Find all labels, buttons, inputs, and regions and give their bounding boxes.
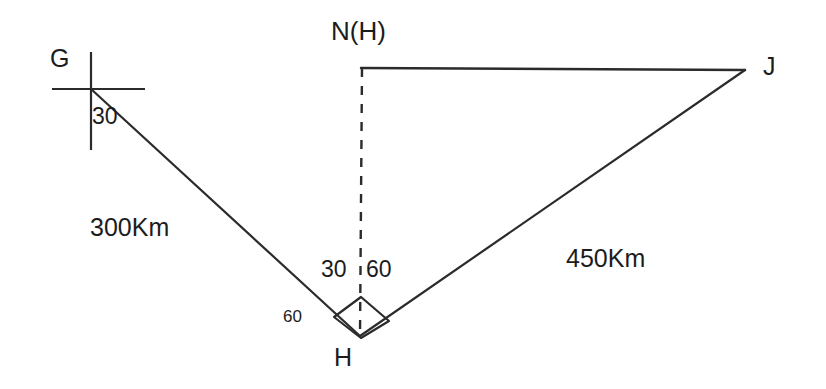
- vertex-label-g: G: [50, 46, 69, 71]
- angle-label-h-north-to-j: 60: [366, 258, 392, 281]
- angle-label-h-exterior: 60: [283, 308, 302, 325]
- angle-marker-icon: [334, 297, 389, 338]
- segment-HJ: [360, 70, 745, 336]
- vertex-label-j: J: [763, 54, 776, 79]
- vertex-label-h: H: [334, 345, 352, 370]
- distance-label-gh: 300Km: [90, 215, 169, 240]
- distance-label-hj: 450Km: [566, 246, 645, 271]
- vertex-label-north-h: N(H): [331, 18, 386, 44]
- north-dashed-line-icon: [360, 68, 362, 336]
- diagram-canvas: G N(H) J H 300Km 450Km 30 30 60 60: [0, 0, 826, 389]
- segment-NJ: [361, 68, 745, 70]
- diagram-svg: [0, 0, 826, 389]
- angle-label-g: 30: [92, 105, 118, 128]
- angle-label-h-north-to-g: 30: [321, 258, 347, 281]
